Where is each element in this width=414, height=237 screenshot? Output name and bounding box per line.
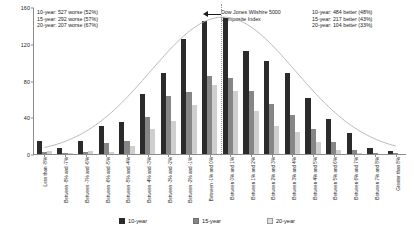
legend-swatch-icon (193, 218, 199, 224)
histogram-chart: 10-year: 527 worse (52%) 15-year: 292 wo… (0, 0, 414, 237)
bar-20-year (336, 150, 341, 154)
bar-20-year (192, 105, 197, 154)
legend-label: 10-year (128, 218, 147, 224)
x-axis-label: Between -4% and -3% (147, 157, 152, 203)
histogram-bin (179, 8, 200, 154)
x-axis-label-cell: Between 0% and 1% (219, 157, 240, 209)
bar-20-year (47, 151, 52, 154)
x-axis-label-cell: Between 7% and 8% (365, 157, 386, 209)
histogram-bin (117, 8, 138, 154)
x-axis-labels: Less than -8%Between -8% and -7%Between … (33, 157, 406, 209)
x-axis-label-cell: Between -8% and -7% (54, 157, 75, 209)
y-axis-tick-mark (31, 118, 34, 119)
bar-20-year (295, 132, 300, 154)
y-axis-tick-mark (31, 44, 34, 45)
bar-20-year (254, 111, 259, 154)
bar-20-year (88, 151, 93, 154)
x-axis-label: Between 0% and 1% (230, 157, 235, 200)
legend-swatch-icon (267, 218, 273, 224)
x-axis-label: Between -1% and 0% (209, 157, 214, 201)
x-axis-label: Between -6% and -5% (106, 157, 111, 203)
x-axis-label-cell: Between 5% and 6% (323, 157, 344, 209)
bar-20-year (171, 121, 176, 154)
index-reference-line (221, 4, 222, 154)
x-axis-label: Between -2% and -1% (188, 157, 193, 203)
histogram-bin (323, 8, 344, 154)
x-axis-label: Between 2% and 3% (271, 157, 276, 200)
histogram-bin (34, 8, 55, 154)
x-axis-label-cell: Between -1% and 0% (199, 157, 220, 209)
histogram-bin (344, 8, 365, 154)
bar-20-year (68, 153, 73, 154)
histogram-bin (261, 8, 282, 154)
x-axis-label-cell: Between 6% and 7% (344, 157, 365, 209)
x-axis-label-cell: Between -4% and -3% (137, 157, 158, 209)
chart-legend: 10-year15-year20-year (0, 215, 414, 227)
histogram-bin (241, 8, 262, 154)
bar-20-year (150, 129, 155, 154)
x-axis-label-cell: Between 1% and 2% (240, 157, 261, 209)
x-axis-label-cell: Between 2% and 3% (261, 157, 282, 209)
histogram-bin (303, 8, 324, 154)
plot-area: 04080120160 (33, 8, 406, 155)
y-axis-tick-mark (31, 81, 34, 82)
x-axis-label-cell: Between -5% and -4% (116, 157, 137, 209)
bar-20-year (274, 126, 279, 154)
legend-item-15-year[interactable]: 15-year (193, 218, 221, 224)
histogram-bin (199, 8, 220, 154)
histogram-bin (137, 8, 158, 154)
y-axis-tick-mark (31, 8, 34, 9)
histogram-bin (75, 8, 96, 154)
x-axis-label: Between 1% and 2% (251, 157, 256, 200)
x-axis-label: Between 7% and 8% (375, 157, 380, 200)
x-axis-label-cell: Between -6% and -5% (95, 157, 116, 209)
x-axis-label: Between -7% and -6% (85, 157, 90, 203)
histogram-bin (96, 8, 117, 154)
histogram-bin (220, 8, 241, 154)
legend-label: 15-year (202, 218, 221, 224)
bar-20-year (109, 152, 114, 154)
y-axis-tick-mark (31, 155, 34, 156)
x-axis-label-cell: Greater than 8% (385, 157, 406, 209)
bar-20-year (233, 91, 238, 154)
x-axis-label: Between -8% and -7% (64, 157, 69, 203)
legend-item-10-year[interactable]: 10-year (119, 218, 147, 224)
legend-item-20-year[interactable]: 20-year (267, 218, 295, 224)
x-axis-label: Greater than 8% (396, 157, 401, 191)
x-axis-label: Between 6% and 7% (354, 157, 359, 200)
x-axis-label: Between -5% and -4% (126, 157, 131, 203)
x-axis-label-cell: Between 3% and 4% (282, 157, 303, 209)
x-axis-label: Between 5% and 6% (333, 157, 338, 200)
x-axis-label: Between 3% and 4% (292, 157, 297, 200)
x-axis-label-cell: Between -7% and -6% (74, 157, 95, 209)
legend-label: 20-year (276, 218, 295, 224)
histogram-bin (158, 8, 179, 154)
x-axis-label: Between 4% and 5% (313, 157, 318, 200)
x-axis-label: Between -3% and -2% (168, 157, 173, 203)
histogram-bin (365, 8, 386, 154)
histogram-bin (55, 8, 76, 154)
histogram-bin (282, 8, 303, 154)
x-axis-label-cell: Less than -8% (33, 157, 54, 209)
bar-20-year (212, 85, 217, 154)
x-axis-label-cell: Between 4% and 5% (302, 157, 323, 209)
x-axis-label-cell: Between -3% and -2% (157, 157, 178, 209)
histogram-bin (385, 8, 406, 154)
bar-20-year (130, 146, 135, 154)
x-axis-label: Less than -8% (43, 157, 48, 186)
legend-swatch-icon (119, 218, 125, 224)
bar-20-year (316, 142, 321, 154)
x-axis-label-cell: Between -2% and -1% (178, 157, 199, 209)
bar-20-year (357, 153, 362, 154)
